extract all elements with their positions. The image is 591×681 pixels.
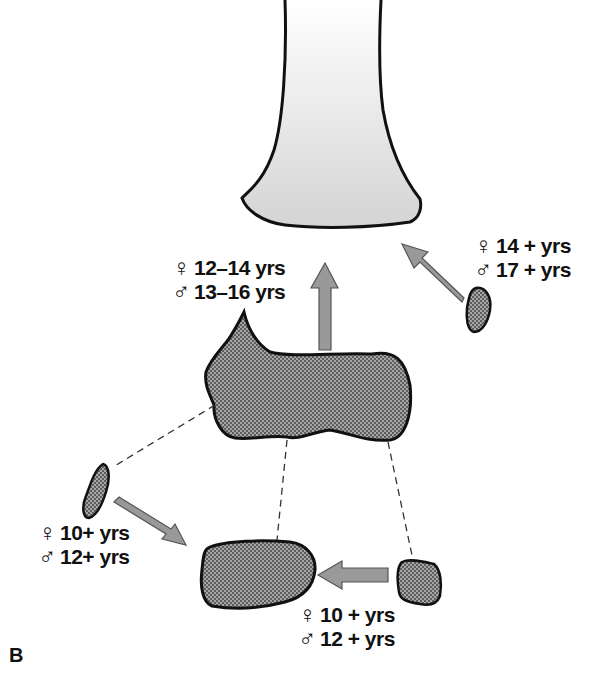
male-age-text: 12+ yrs [60,545,130,569]
female-symbol-icon: ♀ [296,603,318,627]
age-label-epiphysis-right: ♀ 14 + yrs ♂ 17 + yrs [472,234,571,282]
female-symbol-icon: ♀ [36,521,58,545]
panel-label: B [9,644,23,667]
age-label-ossicle-bottom-right: ♀ 10 + yrs ♂ 12 + yrs [296,603,395,651]
arrow-left-bottom [318,561,388,589]
female-symbol-icon: ♀ [170,256,192,280]
female-symbol-icon: ♀ [472,234,494,258]
age-label-ossicle-left: ♀ 10+ yrs ♂ 12+ yrs [36,521,130,569]
male-symbol-icon: ♂ [36,545,58,569]
female-age-text: 10+ yrs [60,521,130,545]
female-age-text: 14 + yrs [496,234,571,258]
bone-ossification-diagram [0,0,591,681]
female-age-text: 10 + yrs [320,603,395,627]
ossicle-right [467,288,491,332]
female-age-text: 12–14 yrs [194,256,285,280]
arrow-up-center [311,263,338,350]
epiphysis-main [206,312,411,440]
male-age-text: 13–16 yrs [194,280,285,304]
age-label-epiphysis-center: ♀ 12–14 yrs ♂ 13–16 yrs [170,256,285,304]
male-symbol-icon: ♂ [170,280,192,304]
ossicle-bottom-right [397,560,440,604]
bone-shaft [242,0,421,227]
ossicle-left [83,464,108,518]
male-symbol-icon: ♂ [296,627,318,651]
ossicle-bottom-center [201,541,315,608]
arrow-diagonal-right [402,244,464,302]
male-symbol-icon: ♂ [472,258,494,282]
male-age-text: 12 + yrs [320,627,395,651]
male-age-text: 17 + yrs [496,258,571,282]
